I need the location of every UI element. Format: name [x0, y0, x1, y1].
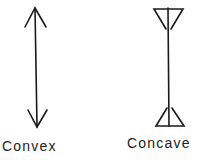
- concave-arrow-icon: [154, 8, 184, 126]
- concave-shaft: [168, 8, 169, 126]
- convex-arrow-icon: [25, 8, 47, 127]
- concave-label: Concave: [127, 136, 191, 150]
- convex-label: Convex: [2, 139, 57, 153]
- concave-bottom-arrowhead-icon: [156, 108, 184, 126]
- convex-shaft: [35, 8, 37, 127]
